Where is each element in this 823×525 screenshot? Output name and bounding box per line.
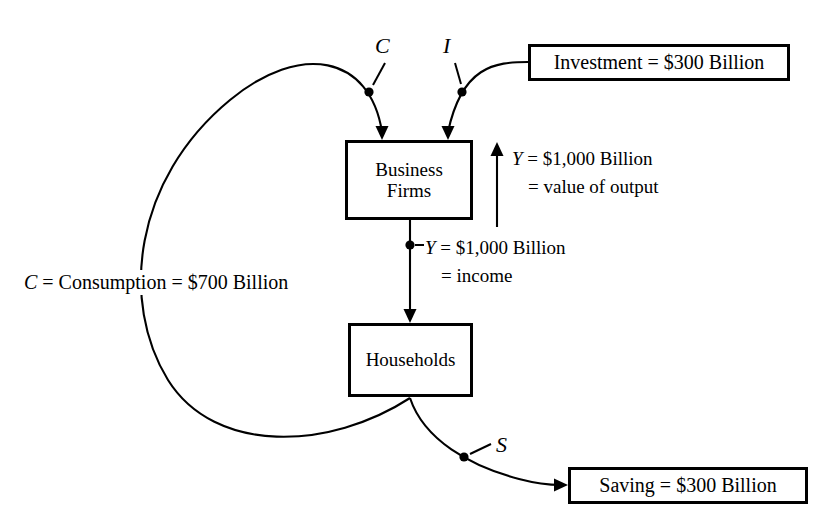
node-business-firms[interactable]: Business Firms: [345, 140, 473, 220]
consumption-flow-dot: [364, 87, 373, 96]
output-arrowhead: [491, 142, 504, 156]
node-households-label: Households: [366, 349, 456, 370]
node-saving-label: Saving = $300 Billion: [599, 474, 776, 496]
flow-label-consumption: C: [375, 33, 390, 59]
node-business-firms-line2: Firms: [387, 180, 431, 201]
flow-label-investment: I: [443, 33, 450, 59]
investment-arrowhead: [442, 126, 455, 140]
annotation-income: Y = $1,000 Billion = income: [425, 234, 566, 289]
circular-flow-diagram: Business Firms Households Investment = $…: [0, 0, 823, 525]
saving-arrowhead: [554, 479, 568, 492]
annotation-consumption: C = Consumption = $700 Billion: [22, 270, 290, 295]
node-investment[interactable]: Investment = $300 Billion: [528, 44, 790, 81]
income-flow-dot: [405, 240, 414, 249]
annotation-consumption-text: = Consumption = $700 Billion: [37, 271, 288, 293]
annotation-consumption-symbol: C: [24, 271, 37, 293]
annotation-output-symbol: Y: [512, 148, 523, 169]
consumption-label-leader: [373, 63, 385, 85]
saving-label-leader: [470, 444, 491, 454]
annotation-output-line2: = value of output: [512, 173, 659, 201]
consumption-arrowhead: [376, 126, 389, 140]
income-arrowhead: [404, 309, 417, 323]
investment-label-leader: [455, 63, 461, 84]
investment-flow-path: [448, 62, 528, 132]
node-investment-label: Investment = $300 Billion: [554, 51, 765, 73]
flow-label-saving: S: [496, 432, 507, 458]
annotation-output-line1: = $1,000 Billion: [523, 148, 653, 169]
node-business-firms-line1: Business: [375, 159, 443, 180]
saving-flow-path: [410, 398, 561, 485]
annotation-income-line1: = $1,000 Billion: [436, 237, 566, 258]
annotation-income-symbol: Y: [425, 237, 436, 258]
annotation-income-line2: = income: [425, 262, 566, 290]
node-households[interactable]: Households: [348, 323, 473, 397]
node-saving[interactable]: Saving = $300 Billion: [568, 467, 808, 504]
annotation-output: Y = $1,000 Billion = value of output: [512, 145, 659, 200]
saving-flow-dot: [459, 452, 468, 461]
investment-flow-dot: [457, 87, 466, 96]
